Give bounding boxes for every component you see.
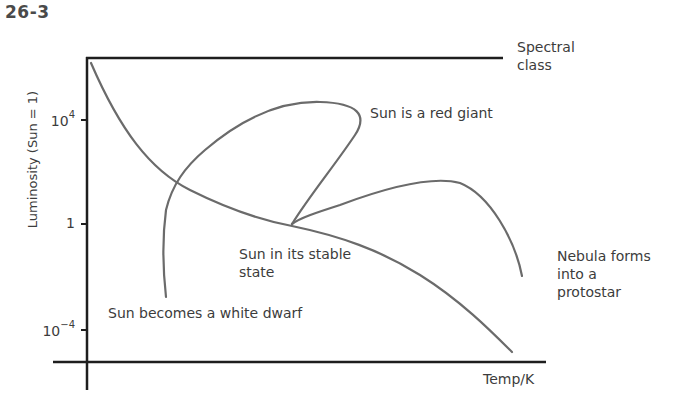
stable-line2: state: [239, 263, 351, 281]
annotation-nebula-protostar: Nebula forms into a protostar: [557, 247, 651, 301]
annotation-white-dwarf: Sun becomes a white dwarf: [108, 304, 302, 322]
y-axis-label: Luminosity (Sun = 1): [25, 90, 40, 230]
annotation-red-giant: Sun is a red giant: [370, 104, 493, 122]
stable-line1: Sun in its stable: [239, 245, 351, 263]
x-axis-label: Temp/K: [483, 370, 534, 388]
tick-label-1e4: 104: [35, 111, 75, 129]
annotation-stable-state: Sun in its stable state: [239, 245, 351, 281]
nebula-line2: into a: [557, 265, 651, 283]
tick-label-1em4: 10−4: [35, 321, 75, 339]
spectral-class-label: Spectral class: [517, 38, 575, 74]
tick-label-1: 1: [35, 215, 75, 231]
spectral-class-line2: class: [517, 56, 575, 74]
hr-diagram-plot: [0, 0, 679, 410]
nebula-line1: Nebula forms: [557, 247, 651, 265]
nebula-line3: protostar: [557, 283, 651, 301]
spectral-class-line1: Spectral: [517, 38, 575, 56]
